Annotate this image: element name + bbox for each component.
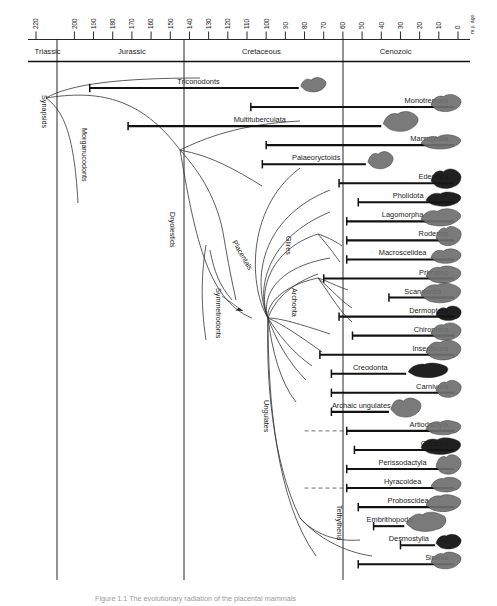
era-label-jurassic: Jurassic — [118, 47, 146, 56]
taxon-silhouette — [431, 477, 461, 492]
taxon-label: Pholidota — [393, 191, 425, 200]
taxon-silhouette — [383, 112, 418, 132]
taxon-row: Desmostylia — [389, 534, 461, 549]
axis-unit-label: m.y. ago — [469, 14, 475, 34]
taxa-range-bars: TriconodontsMonotremataMultituberculataM… — [90, 77, 461, 569]
taxon-row: Creodonta — [331, 363, 448, 378]
taxon-row: Hyracoidea — [347, 477, 461, 492]
taxon-row: Multituberculata — [128, 112, 418, 132]
taxon-silhouette — [368, 152, 393, 169]
taxon-row: Artiodactyla — [347, 420, 461, 435]
taxon-silhouette — [421, 209, 461, 226]
taxon-row: Triconodonts — [90, 77, 326, 92]
taxon-row: Insectivora — [320, 340, 461, 360]
taxon-row: Edentata — [339, 169, 461, 189]
era-boundary-lines — [57, 40, 343, 581]
taxon-label: Proboscidea — [388, 496, 430, 505]
taxon-row: Lagomorpha — [347, 209, 461, 226]
axis-tick-label: 80 — [301, 21, 308, 29]
axis-tick-label: 40 — [378, 21, 385, 29]
taxon-label: Archaic ungulates — [332, 401, 391, 410]
taxon-row: Dermoptera — [339, 306, 461, 321]
clade-label-morganucodonts: Morganucodonts — [80, 128, 89, 182]
axis-tick-label: 190 — [90, 18, 97, 29]
era-band: TriassicJurassicCretaceousCenozoic — [35, 47, 412, 56]
taxon-row: Proboscidea — [358, 495, 461, 512]
taxon-label: Triconodonts — [177, 77, 220, 86]
taxon-silhouette — [301, 78, 326, 92]
phylogeny-chart: 2202001901801701601501401301201101009080… — [0, 0, 497, 606]
axis-tick-label: 100 — [263, 18, 270, 29]
axis-tick-label: 150 — [167, 18, 174, 29]
axis-tick-label: 0 — [454, 25, 461, 29]
axis-tick-label: 220 — [32, 18, 39, 29]
figure-caption: Figure 1.1 The evolutionary radiation of… — [95, 594, 296, 603]
taxon-label: Multituberculata — [234, 115, 287, 124]
axis-tick-label: 170 — [128, 18, 135, 29]
taxon-silhouette — [431, 249, 461, 263]
taxon-silhouette — [436, 455, 461, 475]
taxon-label: Desmostylia — [389, 534, 430, 543]
figure-root: 2202001901801701601501401301201101009080… — [0, 0, 497, 606]
axis-tick-label: 50 — [358, 21, 365, 29]
clade-label-synapsids: Synapsids — [40, 95, 49, 129]
taxon-row: Marsupialia — [266, 134, 461, 149]
axis-tick-label: 130 — [205, 18, 212, 29]
taxon-silhouette — [408, 363, 448, 378]
axis-tick-label: 60 — [339, 21, 346, 29]
taxon-label: Embrithopoda — [367, 515, 414, 524]
branch-ungulate-stem — [268, 318, 296, 402]
taxon-silhouette — [426, 495, 461, 512]
branch-tethytheria — [300, 518, 360, 540]
clade-label-ungulates: Ungulates — [262, 400, 271, 433]
axis-tick-label: 120 — [224, 18, 231, 29]
clade-label-symmetrodonts: Symmetrodonts — [214, 288, 223, 339]
clade-label-placentals: Placentals — [230, 239, 255, 273]
branch-sirenia — [268, 318, 316, 556]
branch-marsupialia — [180, 150, 262, 186]
axis-tick-label: 90 — [282, 21, 289, 29]
placentals-arrow — [222, 296, 243, 311]
taxon-row: Chiroptera — [353, 323, 462, 340]
axis-tick-label: 70 — [320, 21, 327, 29]
taxon-row: Primates — [324, 266, 461, 283]
taxon-label: Hyracoidea — [384, 477, 422, 486]
taxon-row: Rodentia — [347, 226, 461, 245]
era-label-cenozoic: Cenozoic — [380, 47, 412, 56]
axis-tick-label: 160 — [147, 18, 154, 29]
taxon-row: Macroscelidea — [347, 248, 461, 263]
axis-tick-label: 200 — [71, 18, 78, 29]
phylogeny-branches — [46, 78, 372, 556]
clade-label-dryolestids: Dryolestids — [168, 212, 177, 248]
taxon-silhouette — [391, 398, 421, 417]
clade-label-tethytheria: Tethytheria — [335, 505, 344, 540]
branch-dryolestids — [180, 150, 224, 238]
era-label-cretaceous: Cretaceous — [242, 47, 281, 56]
taxon-label: Palaeoryctoids — [292, 153, 341, 162]
taxon-label: Macroscelidea — [379, 248, 428, 257]
branch-ungulates-long — [268, 318, 300, 518]
branch-morganucodonts — [46, 98, 78, 203]
taxon-row: Sirenia — [358, 552, 461, 569]
branch-mammal-trunk — [46, 95, 180, 150]
taxon-row: Monotremata — [251, 94, 461, 111]
axis-tick-label: 110 — [243, 18, 250, 29]
taxon-row: Perissodactyla — [347, 455, 461, 475]
taxon-row: Archaic ungulates — [331, 398, 421, 417]
taxon-row: Pholidota — [358, 191, 461, 206]
axis-tick-label: 20 — [416, 21, 423, 29]
branch-lagomorpha — [318, 234, 342, 246]
clade-label-archonta: Archonta — [290, 288, 299, 317]
branch-creodonta — [268, 318, 312, 366]
taxon-silhouette — [436, 534, 461, 549]
taxon-row: Embrithopoda — [367, 512, 446, 531]
branch-stem-long — [202, 245, 206, 340]
axis-tick-label: 30 — [397, 21, 404, 29]
taxon-row: Carnivora — [331, 380, 461, 397]
taxon-label: Perissodactyla — [379, 458, 428, 467]
taxon-row: Palaeoryctoids — [262, 152, 393, 169]
taxon-row: Cetacea — [354, 438, 460, 455]
taxon-label: Creodonta — [353, 363, 388, 372]
axis-tick-label: 10 — [435, 21, 442, 29]
taxon-silhouette — [426, 192, 461, 206]
